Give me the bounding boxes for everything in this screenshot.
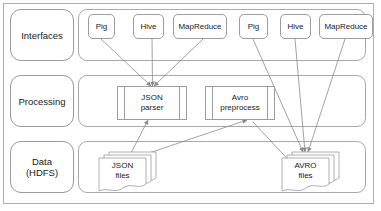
tier-label-data-text-line2: (HDFS) <box>26 167 58 178</box>
interface-label-pig-right: Pig <box>248 22 260 31</box>
data-store-label-json-files-line2: files <box>115 171 129 181</box>
interface-label-mapreduce-right: MapReduce <box>324 22 367 31</box>
process-label-json-parser-line2: parser <box>141 103 164 113</box>
data-store-label-avro-files-line1: AVRO <box>294 161 316 171</box>
tier-label-processing: Processing <box>10 75 74 127</box>
tier-label-interfaces: Interfaces <box>10 9 74 61</box>
interface-box-hive-right[interactable]: Hive <box>280 14 311 39</box>
interface-box-pig-right[interactable]: Pig <box>239 14 268 39</box>
data-store-label-avro-files-line2: files <box>298 171 312 181</box>
interface-label-mapreduce-left: MapReduce <box>178 22 221 31</box>
data-store-json-files[interactable]: JSON files <box>97 151 169 191</box>
interface-box-mapreduce-right[interactable]: MapReduce <box>319 14 373 39</box>
tier-label-data-text-line1: Data <box>32 156 52 167</box>
interface-label-pig-left: Pig <box>96 22 108 31</box>
interface-label-hive-left: Hive <box>140 22 156 31</box>
process-label-json-parser: JSON parser <box>118 87 186 119</box>
diagram-canvas: Interfaces Processing Data (HDFS) Pig Hi… <box>0 0 381 211</box>
tier-label-data: Data (HDFS) <box>10 141 74 193</box>
data-store-label-json-files-line1: JSON <box>112 161 133 171</box>
data-store-avro-files[interactable]: AVRO files <box>280 151 352 191</box>
process-label-avro-preprocess-line1: Avro <box>232 93 248 103</box>
interface-label-hive-right: Hive <box>287 22 303 31</box>
data-store-label-avro-files: AVRO files <box>282 160 329 182</box>
tier-label-interfaces-text: Interfaces <box>21 30 63 41</box>
process-box-avro-preprocess[interactable]: Avro preprocess <box>205 86 275 120</box>
data-store-label-json-files: JSON files <box>99 160 146 182</box>
interface-box-mapreduce-left[interactable]: MapReduce <box>173 14 227 39</box>
process-label-json-parser-line1: JSON <box>141 93 162 103</box>
interface-box-hive-left[interactable]: Hive <box>133 14 164 39</box>
interface-box-pig-left[interactable]: Pig <box>88 14 115 39</box>
process-box-json-parser[interactable]: JSON parser <box>117 86 187 120</box>
process-label-avro-preprocess-line2: preprocess <box>220 103 260 113</box>
process-label-avro-preprocess: Avro preprocess <box>206 87 274 119</box>
tier-label-processing-text: Processing <box>19 96 66 107</box>
